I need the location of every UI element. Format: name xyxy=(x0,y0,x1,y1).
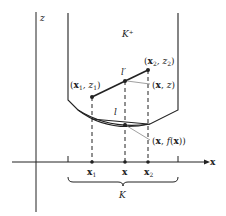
z-axis-label: z xyxy=(39,13,45,23)
point-x2-z2 xyxy=(146,68,150,72)
domain-brace xyxy=(68,177,178,186)
x-axis-label: x xyxy=(210,157,216,167)
tick-label-x: x xyxy=(122,167,128,177)
label-x1-z1: (x1, z1) xyxy=(70,80,101,91)
point-l-prime xyxy=(123,79,127,83)
tick-label-x1: x1 xyxy=(87,167,96,178)
point-x1-z1 xyxy=(90,95,94,99)
domain-label: K xyxy=(118,190,127,200)
label-x-fx: (x, f(x)) xyxy=(152,136,186,146)
convex-function-diagram: z x K⁺ l l′ (x1, z1) (x2, z2) (x, z) (x,… xyxy=(0,0,226,216)
point-x-fx xyxy=(123,123,127,127)
chord-l-label: l xyxy=(114,107,117,117)
segment-l-prime-label: l′ xyxy=(121,67,126,77)
chord-l xyxy=(92,119,148,124)
tick-point-x xyxy=(123,160,127,164)
tick-point-x2 xyxy=(146,160,150,164)
label-x2-z2: (x2, z2) xyxy=(144,56,175,67)
epigraph-label: K⁺ xyxy=(121,29,134,39)
tick-label-x2: x2 xyxy=(144,167,153,178)
tick-point-x1 xyxy=(90,160,94,164)
leader-x-z xyxy=(127,81,150,84)
label-x-z: (x, z) xyxy=(152,80,175,90)
leader-x-fx xyxy=(127,126,150,140)
